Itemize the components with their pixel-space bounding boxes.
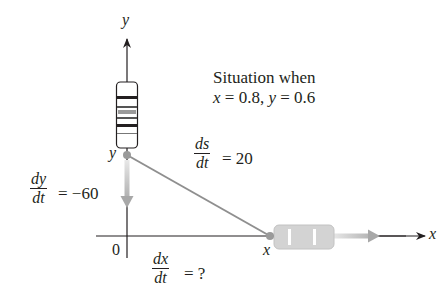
situation-x-value: = 0.8,: [221, 88, 269, 107]
origin-label: 0: [112, 242, 120, 258]
situation-x-var: x: [213, 88, 221, 107]
diagram-canvas: [0, 0, 441, 305]
dx-dt-value: = ?: [184, 265, 205, 282]
dy-dt-fraction: dy dt: [30, 171, 47, 206]
y-point-dot: [123, 151, 131, 159]
situation-y-var: y: [268, 88, 276, 107]
dy-dt-value: = −60: [58, 185, 98, 202]
ds-dt-numerator: ds: [194, 136, 210, 154]
x-axis-label: x: [429, 226, 436, 242]
y-point-label: y: [109, 145, 116, 161]
dx-dt-fraction: dx dt: [152, 251, 169, 286]
car-horizontal-icon: [274, 225, 334, 249]
dx-dt-numerator: dx: [152, 251, 169, 269]
x-point-dot: [266, 232, 274, 240]
ds-dt-denominator: dt: [196, 154, 208, 171]
y-axis-label: y: [122, 12, 129, 28]
dy-dt-arrow-icon: [121, 160, 134, 208]
situation-title: Situation when: [213, 69, 315, 86]
situation-y-value: = 0.6: [276, 88, 315, 107]
ds-dt-fraction: ds dt: [194, 136, 210, 171]
ds-dt-value: = 20: [222, 150, 253, 167]
dy-dt-numerator: dy: [30, 171, 47, 189]
x-point-label: x: [263, 242, 270, 258]
dx-dt-arrow-icon: [334, 230, 380, 243]
situation-values: x = 0.8, y = 0.6: [213, 89, 315, 106]
dy-dt-denominator: dt: [32, 189, 44, 206]
dx-dt-denominator: dt: [154, 269, 166, 286]
car-vertical-icon: [117, 82, 138, 148]
